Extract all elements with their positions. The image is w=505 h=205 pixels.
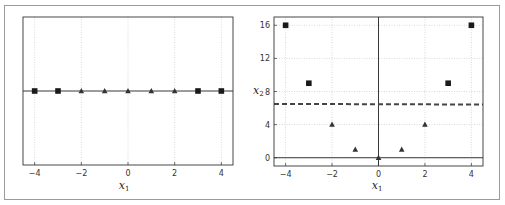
x-tick-label: 0 (125, 169, 130, 178)
y-tick-label: 12 (260, 54, 270, 63)
y-tick-label: 8 (265, 88, 270, 97)
x-tick-label: 2 (172, 169, 177, 178)
square-marker (283, 22, 289, 28)
x-tick-label: −4 (280, 170, 292, 179)
left-plot: −4−2024 (23, 17, 233, 178)
square-marker (306, 80, 312, 86)
triangle-marker (329, 122, 335, 127)
x-tick-label: 4 (219, 169, 224, 178)
x-tick-label: 0 (376, 170, 381, 179)
left-x-axis-label: x1 (119, 179, 130, 193)
square-marker (219, 88, 225, 94)
triangle-marker (399, 146, 405, 151)
right-x-axis-label: x1 (372, 179, 383, 193)
x-tick-label: −2 (326, 170, 338, 179)
triangle-marker (352, 146, 358, 151)
square-marker (445, 80, 451, 86)
square-marker (32, 88, 38, 94)
x-tick-label: 4 (469, 170, 474, 179)
y-tick-label: 4 (265, 121, 270, 130)
decision-boundary-line (274, 104, 483, 105)
square-marker (55, 88, 61, 94)
x-tick-label: −4 (29, 169, 41, 178)
x-tick-label: 2 (422, 170, 427, 179)
right-plot: −4−20240481216 (260, 17, 483, 179)
x-tick-label: −2 (75, 169, 87, 178)
square-marker (469, 22, 475, 28)
triangle-marker (422, 122, 428, 127)
y-tick-label: 0 (265, 154, 270, 163)
figure: −4−2024 −4−20240481216 x1 x1 x2 (0, 0, 505, 205)
right-y-axis-label: x2 (253, 84, 264, 98)
y-tick-label: 16 (260, 21, 270, 30)
square-marker (195, 88, 201, 94)
